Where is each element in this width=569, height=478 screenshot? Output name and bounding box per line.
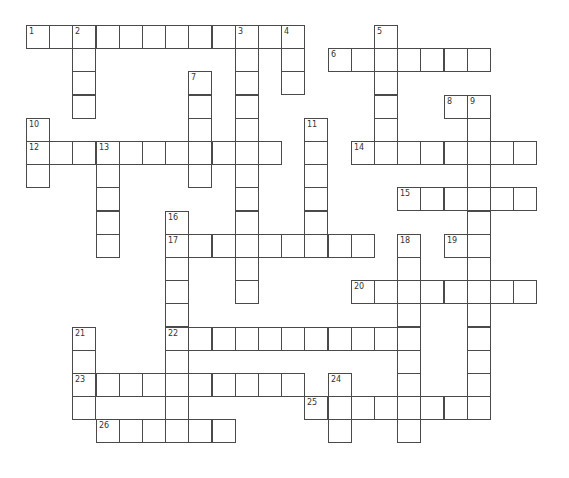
grid-cell[interactable] <box>351 48 375 72</box>
grid-cell[interactable] <box>467 187 491 211</box>
grid-cell[interactable] <box>467 234 491 258</box>
grid-cell[interactable] <box>467 303 491 327</box>
grid-cell[interactable] <box>397 303 421 327</box>
grid-cell[interactable] <box>374 280 398 304</box>
grid-cell[interactable]: 24 <box>328 373 352 397</box>
grid-cell[interactable] <box>467 211 491 235</box>
grid-cell[interactable] <box>49 25 73 49</box>
grid-cell[interactable] <box>165 350 189 374</box>
grid-cell[interactable]: 10 <box>26 118 50 142</box>
grid-cell[interactable] <box>444 48 468 72</box>
grid-cell[interactable] <box>235 48 259 72</box>
grid-cell[interactable] <box>513 187 537 211</box>
grid-cell[interactable] <box>444 187 468 211</box>
grid-cell[interactable] <box>328 396 352 420</box>
grid-cell[interactable] <box>165 419 189 443</box>
grid-cell[interactable] <box>235 118 259 142</box>
grid-cell[interactable]: 21 <box>72 327 96 351</box>
grid-cell[interactable]: 6 <box>328 48 352 72</box>
grid-cell[interactable] <box>235 327 259 351</box>
grid-cell[interactable]: 25 <box>304 396 328 420</box>
grid-cell[interactable]: 2 <box>72 25 96 49</box>
grid-cell[interactable]: 4 <box>281 25 305 49</box>
grid-cell[interactable] <box>96 164 120 188</box>
grid-cell[interactable] <box>281 234 305 258</box>
grid-cell[interactable] <box>513 280 537 304</box>
grid-cell[interactable] <box>374 95 398 119</box>
grid-cell[interactable] <box>96 234 120 258</box>
grid-cell[interactable]: 22 <box>165 327 189 351</box>
grid-cell[interactable]: 3 <box>235 25 259 49</box>
grid-cell[interactable] <box>119 141 143 165</box>
grid-cell[interactable] <box>467 141 491 165</box>
grid-cell[interactable]: 16 <box>165 211 189 235</box>
grid-cell[interactable] <box>397 373 421 397</box>
grid-cell[interactable] <box>96 187 120 211</box>
grid-cell[interactable] <box>281 71 305 95</box>
grid-cell[interactable] <box>467 327 491 351</box>
grid-cell[interactable] <box>235 257 259 281</box>
grid-cell[interactable] <box>235 373 259 397</box>
grid-cell[interactable] <box>304 234 328 258</box>
grid-cell[interactable] <box>188 141 212 165</box>
grid-cell[interactable] <box>374 396 398 420</box>
grid-cell[interactable] <box>165 373 189 397</box>
grid-cell[interactable]: 23 <box>72 373 96 397</box>
grid-cell[interactable] <box>119 25 143 49</box>
grid-cell[interactable] <box>142 141 166 165</box>
grid-cell[interactable] <box>165 25 189 49</box>
grid-cell[interactable] <box>235 187 259 211</box>
grid-cell[interactable] <box>397 327 421 351</box>
grid-cell[interactable] <box>374 141 398 165</box>
grid-cell[interactable] <box>212 327 236 351</box>
grid-cell[interactable] <box>281 48 305 72</box>
grid-cell[interactable] <box>420 280 444 304</box>
grid-cell[interactable] <box>467 396 491 420</box>
grid-cell[interactable] <box>351 234 375 258</box>
grid-cell[interactable] <box>304 211 328 235</box>
grid-cell[interactable] <box>188 419 212 443</box>
grid-cell[interactable] <box>72 350 96 374</box>
grid-cell[interactable] <box>188 327 212 351</box>
grid-cell[interactable] <box>374 118 398 142</box>
grid-cell[interactable]: 5 <box>374 25 398 49</box>
grid-cell[interactable]: 15 <box>397 187 421 211</box>
grid-cell[interactable] <box>96 25 120 49</box>
grid-cell[interactable] <box>328 234 352 258</box>
grid-cell[interactable] <box>235 164 259 188</box>
grid-cell[interactable] <box>188 95 212 119</box>
grid-cell[interactable]: 8 <box>444 95 468 119</box>
grid-cell[interactable] <box>235 211 259 235</box>
grid-cell[interactable] <box>304 164 328 188</box>
grid-cell[interactable] <box>258 141 282 165</box>
grid-cell[interactable] <box>374 71 398 95</box>
grid-cell[interactable] <box>328 327 352 351</box>
grid-cell[interactable] <box>72 71 96 95</box>
grid-cell[interactable] <box>142 25 166 49</box>
grid-cell[interactable] <box>188 25 212 49</box>
grid-cell[interactable] <box>96 211 120 235</box>
grid-cell[interactable] <box>72 141 96 165</box>
grid-cell[interactable] <box>328 419 352 443</box>
grid-cell[interactable] <box>188 118 212 142</box>
grid-cell[interactable] <box>467 164 491 188</box>
grid-cell[interactable] <box>420 141 444 165</box>
grid-cell[interactable]: 12 <box>26 141 50 165</box>
grid-cell[interactable] <box>212 25 236 49</box>
grid-cell[interactable] <box>467 118 491 142</box>
grid-cell[interactable] <box>72 396 96 420</box>
grid-cell[interactable] <box>397 350 421 374</box>
grid-cell[interactable] <box>374 48 398 72</box>
grid-cell[interactable] <box>374 327 398 351</box>
grid-cell[interactable]: 17 <box>165 234 189 258</box>
grid-cell[interactable]: 26 <box>96 419 120 443</box>
grid-cell[interactable] <box>420 396 444 420</box>
grid-cell[interactable]: 13 <box>96 141 120 165</box>
grid-cell[interactable] <box>351 327 375 351</box>
grid-cell[interactable] <box>281 373 305 397</box>
grid-cell[interactable] <box>258 373 282 397</box>
grid-cell[interactable]: 18 <box>397 234 421 258</box>
grid-cell[interactable] <box>72 95 96 119</box>
grid-cell[interactable] <box>49 141 73 165</box>
grid-cell[interactable] <box>444 141 468 165</box>
